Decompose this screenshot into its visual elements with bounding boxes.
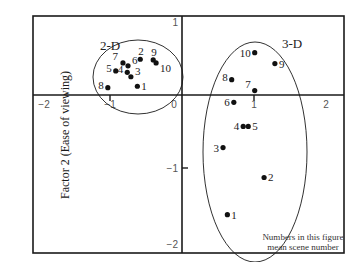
point-label: 2 <box>138 45 144 57</box>
note-line-2: mean scene number <box>267 242 338 252</box>
point-label: 3 <box>135 65 141 77</box>
data-point <box>113 68 118 73</box>
data-point <box>231 100 236 105</box>
point-label: 8 <box>222 71 228 83</box>
point-label: 10 <box>240 47 252 59</box>
axes <box>33 16 344 253</box>
x-tick-label: 1 <box>251 99 257 110</box>
data-point <box>125 70 130 75</box>
data-point <box>120 60 125 65</box>
y-axis-label: Factor 2 (Ease of viewing) <box>58 71 73 199</box>
point-label: 1 <box>141 80 147 92</box>
x-tick-label: −2 <box>38 99 50 110</box>
point-label: 6 <box>224 96 230 108</box>
data-points: 1234567891012345678910 <box>98 45 285 220</box>
point-label: 9 <box>151 46 157 58</box>
point-label: 10 <box>160 62 172 74</box>
data-point <box>246 124 251 129</box>
data-point <box>261 175 266 180</box>
data-point <box>252 88 257 93</box>
point-label: 3 <box>214 142 220 154</box>
data-point <box>153 60 158 65</box>
data-point <box>225 212 230 217</box>
axis-ticks: −2−10121−1−2 <box>38 17 329 250</box>
note-line-1: Numbers in this figure <box>262 232 343 242</box>
scatter-chart: −2−10121−1−2 1234567891012345678910 2-D3… <box>0 0 357 262</box>
y-tick-label: −1 <box>167 163 179 174</box>
point-label: 6 <box>132 54 138 66</box>
data-point <box>220 145 225 150</box>
data-point <box>229 77 234 82</box>
group-label-2d: 2-D <box>100 38 120 53</box>
point-label: 5 <box>252 120 258 132</box>
point-label: 4 <box>234 120 240 132</box>
data-point <box>125 63 130 68</box>
y-tick-label: −2 <box>167 239 179 250</box>
data-point <box>105 85 110 90</box>
data-point <box>252 50 257 55</box>
data-point <box>135 84 140 89</box>
point-label: 7 <box>245 78 251 90</box>
point-label: 1 <box>231 209 237 221</box>
y-tick-label: 1 <box>172 17 178 28</box>
data-point <box>128 74 133 79</box>
data-point <box>138 57 143 62</box>
point-label: 8 <box>98 79 104 91</box>
point-label: 9 <box>279 58 285 70</box>
data-point <box>241 124 246 129</box>
plot-frame <box>33 16 344 253</box>
group-label-3d: 3-D <box>282 36 302 51</box>
point-label: 2 <box>268 171 274 183</box>
point-label: 5 <box>106 62 112 74</box>
data-point <box>272 61 277 66</box>
x-tick-label: 2 <box>323 99 329 110</box>
